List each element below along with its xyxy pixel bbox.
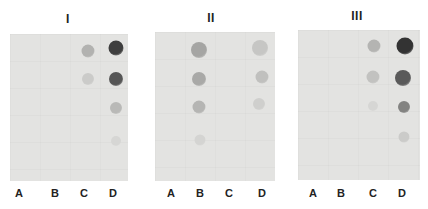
lane-label: B [51,187,59,199]
lane-label: C [225,187,233,199]
blot-dot [399,132,410,143]
blot-dot [111,136,121,146]
blot-dot [82,45,95,58]
lane-label: A [15,187,23,199]
blot-dot [367,71,380,84]
lane-label: C [369,187,377,199]
lane-label: B [337,187,345,199]
lane-label: A [309,187,317,199]
blot-dot [252,40,268,56]
panel-title: II [207,11,215,25]
panel-title: I [66,12,70,26]
blot-dot [195,135,206,146]
blot-dot [192,72,206,86]
blot-dot [82,73,94,85]
lane-label: C [80,187,88,199]
blot-dot [193,101,206,114]
blot-dot [110,102,122,114]
lane-label: B [196,187,204,199]
lane-label: D [109,187,117,199]
blot-dot [191,42,207,58]
lane-label: D [398,187,406,199]
blot-dot [398,101,410,113]
blot-dot [368,101,378,111]
panel-title: III [351,9,363,23]
lane-label: D [258,187,266,199]
blot-dot [109,41,124,56]
blot-dot [253,98,265,110]
blot-dot [397,38,414,55]
blot-dot [368,40,381,53]
blot-dot [395,70,411,86]
lane-label: A [167,187,175,199]
blot-dot [256,71,269,84]
blot-dot [109,72,123,86]
